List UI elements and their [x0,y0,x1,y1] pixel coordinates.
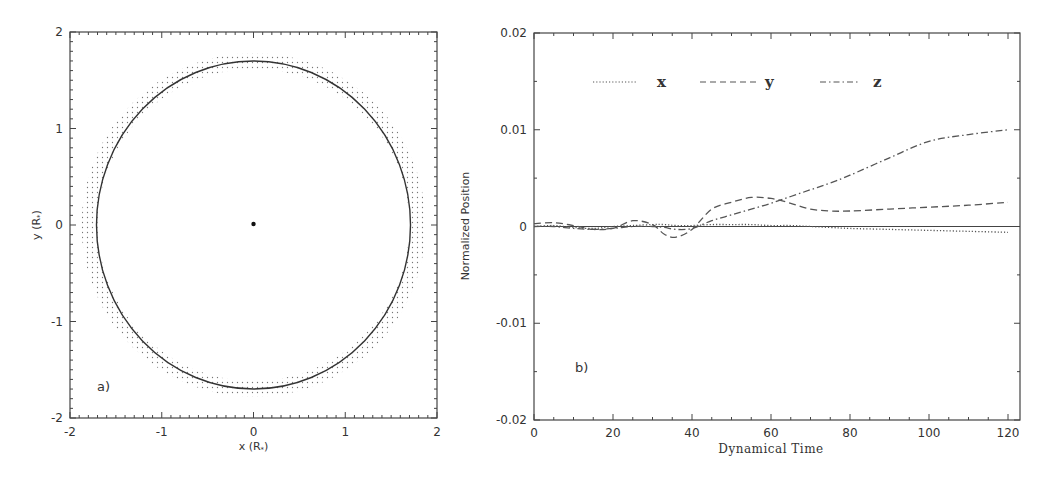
panel-a-y-tick-labels: -2 -1 0 1 2 [51,25,63,425]
y-tick-label: 0.02 [500,26,527,40]
panel-b-chart: x y z 0 20 40 60 80 100 120 0.02 0.01 0 … [459,26,1020,456]
x-tick-label: -2 [64,425,76,439]
x-tick-label: 100 [918,426,941,440]
panel-a-label: a) [97,379,110,394]
legend-y-label: y [764,73,775,91]
y-tick-label: 0 [55,218,63,232]
x-tick-label: 120 [997,426,1020,440]
panel-a-chart: -2 -1 0 1 2 -2 -1 0 1 2 x (R*) y (R*) a) [30,25,441,454]
panel-a-x-axis-title: x (R*) [239,440,269,454]
series-x-line [534,224,1008,232]
panel-b-x-axis-title: Dynamical Time [718,442,823,456]
legend: x y z [593,73,882,91]
x-tick-label: -1 [156,425,168,439]
x-tick-label: 1 [341,425,349,439]
x-tick-label: 80 [842,426,857,440]
y-tick-label: 0.01 [500,123,527,137]
legend-x-label: x [657,73,667,91]
y-tick-label: 1 [55,122,63,136]
figure: -2 -1 0 1 2 -2 -1 0 1 2 x (R*) y (R*) a)… [0,0,1053,478]
panel-b-y-tick-labels: 0.02 0.01 0 -0.01 -0.02 [496,26,527,427]
center-point [251,222,255,226]
panel-a-y-axis-title: y (R*) [30,210,44,240]
series-y-line [534,197,1008,237]
panel-b-y-axis-title: Normalized Position [459,172,472,281]
y-tick-label: 0 [519,220,527,234]
x-tick-label: 0 [530,426,538,440]
x-tick-label: 40 [684,426,699,440]
y-tick-label: -0.01 [496,316,527,330]
series-z-line [534,130,1008,230]
panel-a-x-tick-labels: -2 -1 0 1 2 [64,425,441,439]
y-tick-label: -2 [51,411,63,425]
x-tick-label: 20 [605,426,620,440]
y-tick-label: -0.02 [496,413,527,427]
y-tick-label: 2 [55,25,63,39]
legend-z-label: z [873,73,882,91]
panel-b-label: b) [575,360,588,375]
x-tick-label: 2 [433,425,441,439]
x-tick-label: 60 [763,426,778,440]
panel-b-x-tick-labels: 0 20 40 60 80 100 120 [530,426,1019,440]
y-tick-label: -1 [51,315,63,329]
panel-b-series [534,130,1008,238]
x-tick-label: 0 [250,425,258,439]
